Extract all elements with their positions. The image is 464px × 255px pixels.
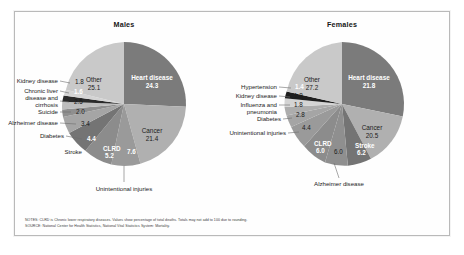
figure-notes: NOTES: CLRD is Chronic lower respiratory… [25, 218, 441, 229]
slice-label-heart-disease: Heart disease [348, 74, 390, 81]
slice-label-cancer: Cancer [362, 124, 383, 131]
slice-value-cancer: 20.5 [366, 132, 379, 139]
slice-label-heart-disease: Heart disease [131, 74, 173, 81]
slice-label-stroke: Stroke [355, 142, 375, 149]
slice-value-unintentional-injuries: 7.6 [127, 148, 136, 155]
callout-unintentional-injuries: Unintentional injuries [96, 185, 153, 192]
callout-alzheimer-disease: Alzheimer disease [314, 180, 364, 187]
slice-value-other: 27.2 [306, 84, 319, 91]
callout-chronic-liver-line1: Chronic liver [24, 87, 58, 94]
panel-title-males: Males [15, 20, 233, 29]
callout-suicide: Suicide [38, 108, 59, 115]
slice-label-other: Other [304, 76, 321, 83]
slice-label-clrd: CLRD [103, 145, 121, 152]
callout-unintentional-injuries: Unintentional injuries [229, 129, 286, 136]
pie-chart-males: Heart disease 24.3 Cancer 21.4 Other 25.… [24, 32, 224, 200]
slice-value-heart-disease: 24.3 [146, 82, 159, 89]
panel-title-females: Females [233, 20, 451, 29]
callout-diabetes: Diabetes [40, 132, 64, 139]
chart-panel-males: Males [15, 12, 233, 208]
callout-chronic-liver-line2: disease and [25, 94, 58, 101]
slice-value-diabetes: 2.8 [296, 111, 305, 118]
figure-panel: Males [14, 11, 450, 236]
callout-alzheimer-disease: Alzheimer disease [8, 119, 58, 126]
slice-value-heart-disease: 21.8 [363, 82, 376, 89]
callout-diabetes: Diabetes [257, 115, 281, 122]
slice-value-stroke: 4.4 [87, 135, 96, 142]
slice-label-other: Other [86, 76, 103, 83]
slice-value-suicide: 2.5 [74, 98, 83, 105]
callout-hypertension: Hypertension [241, 83, 277, 90]
slice-value-alzheimer-disease: 6.0 [334, 148, 343, 155]
callout-stroke: Stroke [64, 148, 82, 155]
slice-value-influenza-pneumonia: 1.8 [294, 101, 303, 108]
slice-label-cancer: Cancer [142, 127, 163, 134]
slice-value-hypertension: 1.4 [295, 83, 304, 90]
notes-line-2: SOURCE: National Center for Health Stati… [25, 224, 441, 229]
chart-panel-females: Females [233, 12, 451, 208]
slice-value-kidney-disease: 1.8 [75, 78, 84, 85]
slice-value-cancer: 21.4 [146, 135, 159, 142]
callout-influenza-line1: Influenza and [240, 101, 277, 108]
pie-chart-females: Heart disease 21.8 Cancer 20.5 Other 27.… [242, 32, 442, 200]
slice-value-chronic-liver-disease: 1.6 [74, 88, 83, 95]
slice-value-unintentional-injuries: 4.4 [302, 124, 311, 131]
callout-influenza-line2: pneumonia [247, 108, 278, 115]
slice-value-clrd: 6.0 [316, 147, 325, 154]
slice-value-other: 25.1 [88, 84, 101, 91]
slice-value-stroke: 6.2 [357, 149, 366, 156]
slice-value-kidney-disease: 1.8 [294, 92, 303, 99]
callout-chronic-liver-line3: cirrhosis [35, 101, 58, 108]
callout-kidney-disease: Kidney disease [17, 77, 59, 84]
slice-value-diabetes: 3.4 [81, 120, 90, 127]
slice-value-clrd: 5.2 [105, 152, 114, 159]
slice-label-clrd: CLRD [314, 140, 332, 147]
callout-kidney-disease: Kidney disease [236, 92, 278, 99]
slice-value-alzheimer-disease: 2.0 [76, 108, 85, 115]
